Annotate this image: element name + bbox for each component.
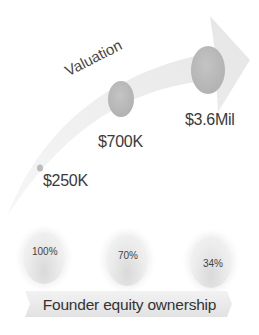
valuation-label-700k: $700K [98, 133, 143, 151]
equity-label-70: 70% [118, 250, 138, 261]
valuation-label-3-6mil: $3.6Mil [185, 111, 234, 129]
equity-label-34: 34% [203, 258, 223, 269]
valuation-dot-3-6mil [191, 46, 225, 94]
valuation-dot-250k [37, 165, 43, 172]
equity-circle-100 [23, 232, 65, 284]
equity-label-100: 100% [32, 246, 58, 257]
equity-title: Founder equity ownership [0, 296, 259, 314]
valuation-label-250k: $250K [43, 172, 88, 190]
valuation-dot-700k [108, 81, 134, 117]
